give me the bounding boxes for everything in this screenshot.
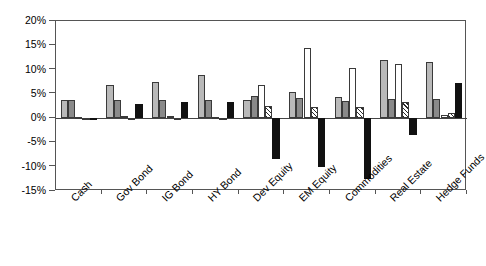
- bar: [395, 64, 402, 118]
- bar: [128, 118, 135, 120]
- y-axis-tick-label: 10%: [0, 63, 46, 74]
- bar: [311, 107, 318, 118]
- bar: [455, 83, 462, 118]
- plot-area: [55, 20, 466, 190]
- x-axis-tick-mark: [283, 190, 284, 194]
- bar: [205, 100, 212, 118]
- bar: [90, 118, 97, 120]
- x-axis-tick-mark: [238, 190, 239, 194]
- x-axis-tick-mark: [101, 190, 102, 194]
- bar: [174, 118, 181, 120]
- bar: [82, 118, 89, 120]
- x-axis-tick-mark: [375, 190, 376, 194]
- y-axis-tick-label: 0%: [0, 112, 46, 123]
- bar: [356, 107, 363, 118]
- bar: [441, 115, 448, 118]
- bar-group: [147, 21, 193, 189]
- bar: [198, 75, 205, 118]
- bar: [212, 117, 219, 119]
- bar: [304, 48, 311, 118]
- bar: [349, 68, 356, 118]
- y-axis-tick-mark: [49, 20, 55, 21]
- bar: [121, 116, 128, 118]
- y-axis-tick-label: -5%: [0, 136, 46, 147]
- bar: [448, 113, 455, 118]
- bar: [219, 118, 226, 120]
- bar-group: [102, 21, 148, 189]
- bar-group: [239, 21, 285, 189]
- y-axis-tick-label: 20%: [0, 15, 46, 26]
- bar: [135, 104, 142, 118]
- bar: [227, 102, 234, 119]
- bar: [318, 118, 325, 167]
- bar: [388, 99, 395, 118]
- bar: [335, 97, 342, 118]
- bar: [167, 116, 174, 118]
- x-axis-tick-mark: [466, 190, 467, 194]
- bar: [114, 100, 121, 118]
- y-axis-tick-mark: [49, 44, 55, 45]
- bar: [106, 85, 113, 118]
- y-axis-tick-label: 5%: [0, 88, 46, 99]
- y-axis-tick-mark: [49, 68, 55, 69]
- y-axis-tick-mark: [49, 117, 55, 118]
- bar: [342, 101, 349, 118]
- bar: [75, 117, 82, 119]
- bar: [289, 92, 296, 118]
- bar-group: [330, 21, 376, 189]
- bar: [68, 100, 75, 118]
- bar: [181, 102, 188, 119]
- bar: [433, 99, 440, 118]
- bar: [402, 102, 409, 119]
- x-axis-tick-mark: [192, 190, 193, 194]
- y-axis-tick-mark: [49, 190, 55, 191]
- y-axis-tick-mark: [49, 92, 55, 93]
- y-axis-tick-mark: [49, 165, 55, 166]
- x-axis-tick-mark: [420, 190, 421, 194]
- bar: [409, 118, 416, 135]
- y-axis-tick-label: -15%: [0, 185, 46, 196]
- y-axis-tick-label: 15%: [0, 39, 46, 50]
- y-axis-tick-label: -10%: [0, 160, 46, 171]
- bar: [152, 82, 159, 118]
- bar-group: [193, 21, 239, 189]
- bar: [258, 85, 265, 118]
- bar: [243, 100, 250, 118]
- bar: [265, 106, 272, 118]
- bar-group: [56, 21, 102, 189]
- bar: [251, 96, 258, 118]
- bar: [380, 60, 387, 118]
- bar: [296, 98, 303, 118]
- bar: [61, 100, 68, 118]
- bar: [159, 100, 166, 118]
- x-axis-tick-mark: [146, 190, 147, 194]
- x-axis-tick-mark: [329, 190, 330, 194]
- bar: [272, 118, 279, 159]
- bar: [426, 62, 433, 118]
- y-axis-tick-mark: [49, 141, 55, 142]
